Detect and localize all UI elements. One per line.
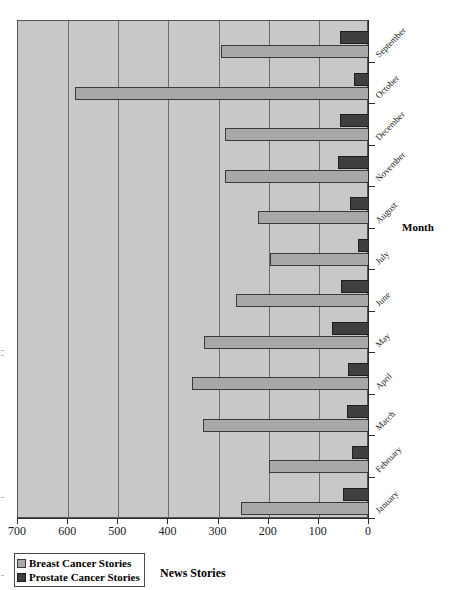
x-tick-label-600: 600 [47, 524, 87, 539]
plot-area [17, 20, 368, 518]
bar-prostate-may [332, 322, 369, 335]
y-axis-label-december: December [373, 109, 406, 142]
y-tick [369, 352, 375, 353]
y-tick [369, 394, 375, 395]
y-axis-label-august: August [373, 200, 398, 225]
x-tick-label-100: 100 [298, 524, 338, 539]
legend-label: Prostate Cancer Stories [29, 571, 140, 583]
y-tick [369, 228, 375, 229]
bar-breast-july [270, 253, 369, 266]
bar-prostate-february [352, 446, 369, 459]
x-tick-label-500: 500 [97, 524, 137, 539]
y-tick [369, 435, 375, 436]
bar-breast-february [269, 460, 369, 473]
bar-breast-november [225, 170, 369, 183]
y-axis-label-september: September [373, 25, 407, 59]
y-axis-label-november: November [373, 150, 407, 184]
bar-chart: SeptemberOctoberDecemberNovemberAugustJu… [0, 0, 458, 590]
legend-swatch-breast-icon [17, 559, 26, 568]
scan-edge-mark [1, 497, 4, 498]
y-tick [369, 103, 375, 104]
x-axis-title: News Stories [160, 566, 226, 581]
y-tick [369, 62, 375, 63]
bar-prostate-october [354, 73, 369, 86]
y-axis-label-june: June [373, 290, 392, 309]
y-tick [369, 518, 375, 519]
x-tick-label-200: 200 [248, 524, 288, 539]
bar-breast-october [75, 87, 369, 100]
y-tick [369, 145, 375, 146]
y-tick [369, 477, 375, 478]
bar-breast-august [258, 211, 369, 224]
bar-prostate-november [338, 156, 369, 169]
bar-prostate-august [350, 197, 369, 210]
y-axis-title: Month [402, 221, 434, 233]
scan-edge-mark [1, 575, 4, 576]
x-tick-label-400: 400 [147, 524, 187, 539]
bar-prostate-april [348, 363, 369, 376]
y-tick [369, 186, 375, 187]
y-axis-label-may: May [373, 331, 392, 350]
bar-prostate-march [347, 405, 369, 418]
bar-breast-september [221, 45, 369, 58]
legend-label: Breast Cancer Stories [29, 557, 131, 569]
bar-breast-december [225, 128, 369, 141]
bar-breast-may [204, 336, 369, 349]
x-tick-label-700: 700 [0, 524, 37, 539]
bar-breast-march [203, 419, 369, 432]
bar-prostate-september [340, 31, 369, 44]
y-axis-label-january: January [373, 489, 400, 516]
bar-breast-april [192, 377, 369, 390]
legend-item-breast: Breast Cancer Stories [17, 556, 140, 570]
y-tick [369, 311, 375, 312]
y-axis-label-july: July [373, 249, 391, 267]
legend-item-prostate: Prostate Cancer Stories [17, 570, 140, 584]
y-axis-label-march: March [373, 409, 397, 433]
scan-edge-mark [1, 350, 4, 351]
scan-edge-mark [1, 355, 4, 356]
x-axis-line [17, 518, 369, 519]
bar-breast-june [236, 294, 369, 307]
y-axis-label-february: February [373, 444, 403, 474]
bar-prostate-december [340, 114, 369, 127]
bar-prostate-january [343, 488, 369, 501]
x-tick-label-0: 0 [348, 524, 388, 539]
legend-swatch-prostate-icon [17, 573, 26, 582]
y-tick [369, 269, 375, 270]
bar-breast-january [241, 502, 369, 515]
y-axis-label-october: October [373, 73, 401, 101]
y-axis-label-april: April [373, 371, 394, 392]
chart-legend: Breast Cancer StoriesProstate Cancer Sto… [14, 553, 145, 587]
bar-prostate-june [341, 280, 369, 293]
x-tick-label-300: 300 [198, 524, 238, 539]
gridline-600 [68, 21, 69, 517]
